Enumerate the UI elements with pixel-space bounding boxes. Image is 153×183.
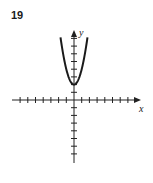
parabola-graph: x y — [0, 0, 153, 183]
x-axis-label: x — [138, 103, 144, 114]
y-axis-label: y — [78, 27, 84, 38]
y-axis-arrow-icon — [71, 30, 77, 37]
